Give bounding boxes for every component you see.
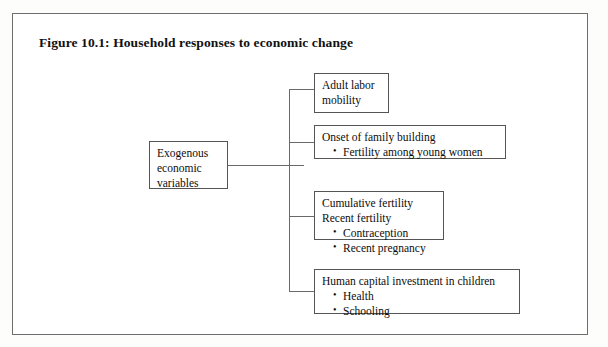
node-head: Human capital investment in children	[322, 274, 513, 289]
list-item: Fertility among young women	[333, 145, 499, 160]
connector-branch-1	[289, 89, 314, 90]
node-head: Onset of family building	[322, 130, 499, 145]
figure-frame: Figure 10.1: Household responses to econ…	[12, 13, 588, 335]
list-item: Schooling	[333, 304, 513, 319]
list-item: Recent pregnancy	[333, 241, 437, 256]
node-exogenous-economic-variables: Exogenous economic variables	[149, 141, 228, 189]
list-item: Health	[333, 289, 513, 304]
node-bullet-list: Fertility among young women	[322, 145, 499, 160]
connector-trunk	[289, 89, 290, 292]
node-adult-labor-mobility: Adult labor mobility	[314, 73, 389, 113]
node-cumulative-and-recent-fertility: Cumulative fertility Recent fertility Co…	[314, 191, 444, 240]
node-label: Exogenous economic variables	[157, 146, 221, 191]
connector-root-stem	[228, 165, 304, 166]
node-human-capital-investment: Human capital investment in children Hea…	[314, 269, 520, 314]
figure-page: Figure 10.1: Household responses to econ…	[0, 0, 608, 347]
connector-branch-2	[289, 142, 314, 143]
node-bullet-list: Health Schooling	[322, 289, 513, 319]
node-head: Adult labor mobility	[322, 78, 382, 108]
node-bullet-list: Contraception Recent pregnancy	[322, 226, 437, 256]
node-head: Cumulative fertility Recent fertility	[322, 196, 437, 226]
figure-title: Figure 10.1: Household responses to econ…	[39, 35, 353, 51]
list-item: Contraception	[333, 226, 437, 241]
connector-branch-3	[289, 216, 314, 217]
connector-branch-4	[289, 291, 314, 292]
node-onset-of-family-building: Onset of family building Fertility among…	[314, 125, 506, 159]
